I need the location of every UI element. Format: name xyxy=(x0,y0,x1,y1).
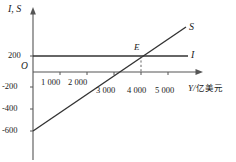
x-axis-symbol: Y/ xyxy=(188,83,196,93)
y-tick-label-neg200: -200 xyxy=(2,82,18,91)
x-tick-label-1000: 1 000 xyxy=(41,78,60,87)
series-label-S: S xyxy=(189,22,194,32)
x-tick-label-5000: 5 000 xyxy=(155,86,174,95)
x-tick-label-4000: 4 000 xyxy=(127,86,146,95)
economics-is-chart: I, S 200 O -200 -400 -600 1 000 2 000 3 … xyxy=(0,0,236,162)
y-tick-label-neg400: -400 xyxy=(2,104,18,113)
equilibrium-point-label: E xyxy=(134,43,140,52)
y-axis-label: I, S xyxy=(8,4,21,14)
y-tick-label-200: 200 xyxy=(8,51,21,60)
y-axis-arrowhead xyxy=(30,7,36,15)
origin-label: O xyxy=(21,62,28,72)
x-axis-title: Y/亿美元 xyxy=(188,78,223,94)
y-tick-label-neg600: -600 xyxy=(2,126,18,135)
x-tick-label-3000: 3 000 xyxy=(96,86,115,95)
x-axis-arrowhead xyxy=(196,69,204,75)
x-tick-label-2000: 2 000 xyxy=(68,78,87,87)
series-label-I: I xyxy=(191,50,194,60)
x-axis-unit: 亿美元 xyxy=(196,83,223,93)
